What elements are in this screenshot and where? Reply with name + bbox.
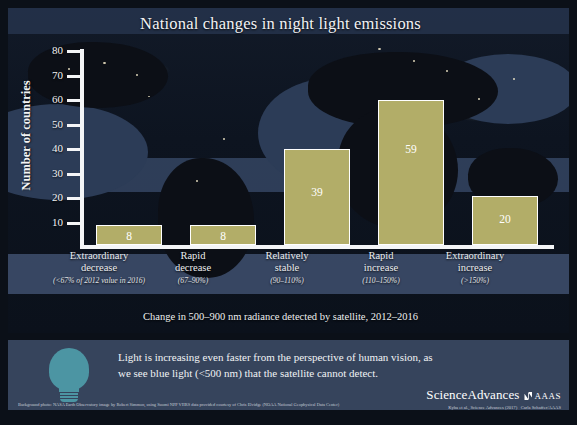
x-category-relatively-stable: Relatively stable (90–110%) — [238, 250, 336, 285]
x-axis-spine — [80, 245, 554, 249]
y-tick-label-70: 70 — [37, 69, 63, 81]
bar-value-label: 20 — [473, 213, 537, 225]
lightbulb-icon — [46, 348, 92, 402]
logo-wordmark: ScienceAdvancesAAAS — [426, 387, 561, 403]
bar-value-label: 8 — [191, 230, 255, 242]
callout-text: Light is increasing even faster from the… — [118, 349, 448, 381]
y-tick-label-40: 40 — [37, 142, 63, 154]
bar-value-label: 39 — [285, 186, 349, 198]
bar-extraordinary-increase[interactable]: 20 — [472, 196, 538, 245]
bar-rapid-decrease[interactable]: 8 — [190, 225, 256, 245]
y-tick-70 — [67, 75, 80, 78]
x-category-rapid-increase: Rapid increase (110–150%) — [332, 250, 430, 285]
chart-title: National changes in night light emission… — [0, 14, 561, 34]
y-tick-30 — [67, 173, 80, 176]
category-line-1: Relatively — [265, 250, 308, 261]
category-range: (67–90%) — [144, 276, 242, 285]
category-line-1: Extraordinary — [70, 250, 128, 261]
category-line-2: decrease — [81, 262, 117, 273]
category-line-1: Extraordinary — [446, 250, 504, 261]
category-line-2: increase — [458, 262, 492, 273]
x-category-rapid-decrease: Rapid decrease (67–90%) — [144, 250, 242, 285]
logo-title: ScienceAdvances — [426, 387, 519, 402]
y-tick-label-80: 80 — [37, 44, 63, 56]
bar-rapid-increase[interactable]: 59 — [378, 100, 444, 245]
aaas-mark-icon — [524, 392, 532, 400]
y-tick-50 — [67, 124, 80, 127]
science-advances-logo: ScienceAdvancesAAAS Kyba et al., Science… — [426, 387, 561, 410]
y-axis-label: Number of countries — [19, 66, 34, 206]
y-tick-label-20: 20 — [37, 191, 63, 203]
category-line-1: Rapid — [368, 250, 393, 261]
bar-relatively-stable[interactable]: 39 — [284, 149, 350, 245]
y-tick-80 — [67, 50, 80, 53]
callout-panel: Light is increasing even faster from the… — [8, 340, 569, 410]
category-line-2: increase — [364, 262, 398, 273]
bar-extraordinary-decrease[interactable]: 8 — [96, 225, 162, 245]
category-range: (>150%) — [426, 276, 524, 285]
category-line-2: decrease — [175, 262, 211, 273]
category-range: (<67% of 2012 value in 2016) — [50, 276, 148, 285]
bars-container: 8 8 39 59 20 — [80, 49, 554, 245]
category-line-2: stable — [275, 262, 300, 273]
y-tick-label-30: 30 — [37, 167, 63, 179]
category-line-1: Rapid — [180, 250, 205, 261]
citation-line: Kyba et al., Science Advances (2017) Car… — [426, 405, 561, 410]
x-category-extraordinary-decrease: Extraordinary decrease (<67% of 2012 val… — [50, 250, 148, 285]
y-tick-label-10: 10 — [37, 216, 63, 228]
x-axis-caption: Change in 500–900 nm radiance detected b… — [0, 311, 561, 322]
y-tick-label-50: 50 — [37, 118, 63, 130]
bar-value-label: 8 — [97, 230, 161, 242]
bar-value-label: 59 — [379, 143, 443, 155]
y-tick-label-60: 60 — [37, 93, 63, 105]
x-category-extraordinary-increase: Extraordinary increase (>150%) — [426, 250, 524, 285]
y-tick-60 — [67, 99, 80, 102]
aaas-label: AAAS — [524, 391, 561, 401]
infographic-poster: National changes in night light emission… — [0, 0, 577, 425]
y-tick-20 — [67, 197, 80, 200]
y-tick-40 — [67, 148, 80, 151]
y-tick-10 — [67, 222, 80, 225]
bar-chart: National changes in night light emission… — [0, 0, 561, 325]
category-range: (90–110%) — [238, 276, 336, 285]
category-range: (110–150%) — [332, 276, 430, 285]
photo-credit: Background photo: NASA Earth Observatory… — [18, 402, 339, 407]
